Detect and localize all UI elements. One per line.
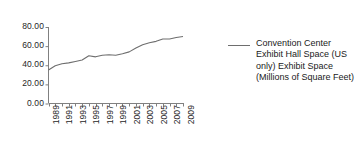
x-axis-tick-label: 2003 bbox=[146, 105, 155, 124]
x-axis-tick-label: 2009 bbox=[187, 105, 196, 124]
legend-series-label: Convention Center Exhibit Hall Space (US… bbox=[250, 38, 356, 84]
x-axis-tick-labels: 1989199119931995199719992001200320052007… bbox=[48, 105, 184, 144]
chart-legend: Convention Center Exhibit Hall Space (US… bbox=[228, 38, 358, 84]
data-series-group bbox=[49, 37, 184, 70]
x-axis-tick-label: 1989 bbox=[52, 105, 61, 124]
x-axis-tick-label: 1991 bbox=[65, 105, 74, 124]
x-axis-tick-label: 1999 bbox=[119, 105, 128, 124]
x-axis-tick-label: 2001 bbox=[133, 105, 142, 124]
legend-line-swatch-icon bbox=[228, 41, 250, 50]
x-axis-tick-label: 1997 bbox=[106, 105, 115, 124]
x-axis-tick-label: 1995 bbox=[92, 105, 101, 124]
line-chart: 80.0060.0040.0020.000.00 198919911993199… bbox=[0, 0, 358, 144]
data-series-line bbox=[49, 37, 184, 70]
x-axis-tick-label: 2007 bbox=[173, 105, 182, 124]
x-axis-tick-label: 1993 bbox=[79, 105, 88, 124]
x-axis-tick-label: 2005 bbox=[160, 105, 169, 124]
